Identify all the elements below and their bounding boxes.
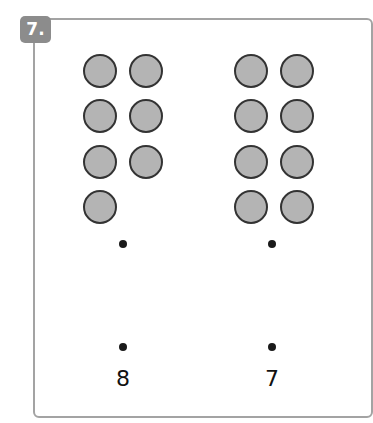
counter-circle-icon — [83, 54, 117, 88]
counter-circle-icon — [280, 145, 314, 179]
counter-circle-icon — [234, 99, 268, 133]
counter-circle-icon — [129, 145, 163, 179]
counter-circle-icon — [83, 190, 117, 224]
number-label: 8 — [108, 366, 138, 391]
counter-circle-icon — [234, 190, 268, 224]
counter-circle-icon — [83, 145, 117, 179]
number-label: 7 — [257, 366, 287, 391]
counter-circle-icon — [83, 99, 117, 133]
match-dot-bottom[interactable] — [119, 343, 127, 351]
match-dot-bottom[interactable] — [268, 343, 276, 351]
counter-circle-icon — [280, 54, 314, 88]
match-dot-top[interactable] — [119, 240, 127, 248]
counter-circle-icon — [234, 145, 268, 179]
exercise-number-badge: 7. — [20, 16, 51, 43]
counter-circle-icon — [234, 54, 268, 88]
counter-circle-icon — [280, 99, 314, 133]
counter-circle-icon — [129, 54, 163, 88]
counter-circle-icon — [280, 190, 314, 224]
match-dot-top[interactable] — [268, 240, 276, 248]
counter-circle-icon — [129, 99, 163, 133]
